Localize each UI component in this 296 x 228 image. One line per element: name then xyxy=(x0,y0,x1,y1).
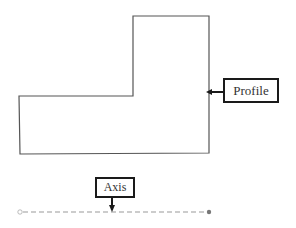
axis-end-point xyxy=(207,210,211,214)
axis-start-point xyxy=(18,210,22,214)
axis-arrowhead xyxy=(109,205,115,212)
profile-shape xyxy=(19,16,209,154)
axis-label-text: Axis xyxy=(104,180,127,195)
profile-label-text: Profile xyxy=(233,83,268,99)
profile-label: Profile xyxy=(223,78,279,103)
diagram-canvas xyxy=(0,0,296,228)
axis-label: Axis xyxy=(95,177,135,198)
